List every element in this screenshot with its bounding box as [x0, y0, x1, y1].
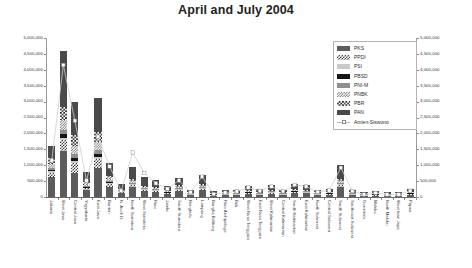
line-marker — [374, 191, 377, 194]
line-marker — [143, 171, 146, 174]
chart-root: April and July 2004 00500,000500,0001,00… — [0, 0, 472, 268]
line-marker — [200, 175, 203, 178]
line-marker — [119, 189, 122, 192]
line-marker — [247, 186, 250, 189]
chart-legend: PKSPPDIPSIPBSDPNI-MPNBKPBRPANAmien-Siswo… — [333, 41, 417, 130]
legend-label: PKS — [354, 46, 364, 51]
line-marker — [316, 190, 319, 193]
line-marker — [96, 135, 99, 138]
line-marker — [166, 187, 169, 190]
line-marker — [397, 193, 400, 196]
legend-swatch-icon — [337, 92, 350, 97]
legend-item[interactable]: Amien-Siswono — [337, 118, 413, 127]
legend-label: Amien-Siswono — [354, 120, 389, 125]
legend-item[interactable]: PNI-M — [337, 81, 413, 90]
legend-line-marker-icon — [337, 120, 350, 125]
line-marker — [85, 179, 88, 182]
legend-item[interactable]: PSI — [337, 62, 413, 71]
legend-swatch-icon — [337, 101, 350, 106]
legend-label: PNBK — [354, 92, 368, 97]
line-marker — [50, 159, 53, 162]
line-marker — [224, 191, 227, 194]
line-marker — [339, 166, 342, 169]
legend-label: PBR — [354, 101, 364, 106]
line-marker — [385, 193, 388, 196]
line-marker — [73, 119, 76, 122]
line-marker — [362, 193, 365, 196]
line-marker — [177, 179, 180, 182]
line-marker — [409, 189, 412, 192]
line-marker — [351, 189, 354, 192]
line-marker — [131, 151, 134, 154]
line-marker — [189, 191, 192, 194]
line-marker — [304, 185, 307, 188]
line-marker — [328, 189, 331, 192]
line-marker — [293, 183, 296, 186]
line-marker — [281, 190, 284, 193]
legend-label: PNI-M — [354, 83, 368, 88]
legend-label: PBSD — [354, 74, 368, 79]
legend-swatch-icon — [337, 64, 350, 69]
legend-label: PSI — [354, 64, 362, 69]
line-marker — [258, 189, 261, 192]
legend-item[interactable]: PBR — [337, 99, 413, 108]
line-marker — [235, 190, 238, 193]
legend-swatch-icon — [337, 110, 350, 115]
legend-item[interactable]: PPDI — [337, 53, 413, 62]
line-marker — [212, 192, 215, 195]
legend-swatch-icon — [337, 55, 350, 60]
line-marker — [62, 63, 65, 66]
legend-swatch-icon — [337, 83, 350, 88]
legend-label: PPDI — [354, 55, 366, 60]
legend-label: PAN — [354, 110, 364, 115]
legend-swatch-icon — [337, 46, 350, 51]
legend-item[interactable]: PAN — [337, 108, 413, 117]
line-marker — [108, 165, 111, 168]
legend-swatch-icon — [337, 74, 350, 79]
legend-item[interactable]: PKS — [337, 44, 413, 53]
legend-item[interactable]: PBSD — [337, 72, 413, 81]
line-marker — [154, 182, 157, 185]
legend-item[interactable]: PNBK — [337, 90, 413, 99]
line-marker — [270, 185, 273, 188]
